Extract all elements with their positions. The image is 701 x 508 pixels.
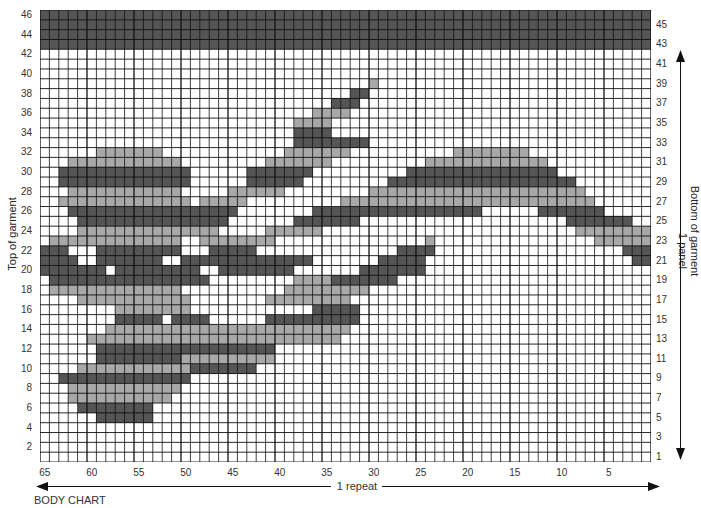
arrow-right-icon (648, 482, 660, 491)
pattern-run (632, 256, 651, 266)
pattern-run (566, 216, 632, 226)
pattern-run (40, 265, 106, 275)
pattern-run (181, 207, 237, 217)
pattern-run (190, 364, 256, 374)
row-label: 36 (2, 108, 32, 118)
pattern-run (294, 138, 369, 148)
row-label: 32 (2, 147, 32, 157)
row-label: 2 (2, 442, 32, 452)
column-label: 35 (317, 468, 337, 478)
column-label: 25 (411, 468, 431, 478)
pattern-run (115, 265, 200, 275)
right-axis-title: Bottom of garment (689, 176, 701, 286)
row-label: 38 (2, 89, 32, 99)
row-label: 3 (656, 432, 662, 442)
pattern-run (378, 256, 425, 266)
pattern-run (200, 197, 247, 207)
pattern-run (78, 403, 153, 413)
row-label: 45 (656, 20, 667, 30)
row-label: 14 (2, 324, 32, 334)
pattern-run (247, 167, 313, 177)
pattern-run (181, 354, 275, 364)
row-label: 9 (656, 373, 662, 383)
row-label: 5 (656, 413, 662, 423)
pattern-run (623, 246, 651, 256)
pattern-run (49, 236, 181, 246)
column-label: 40 (270, 468, 290, 478)
pattern-run (200, 236, 275, 246)
pattern-run (266, 324, 351, 334)
row-label: 10 (2, 364, 32, 374)
pattern-run (388, 177, 576, 187)
row-label: 34 (2, 128, 32, 138)
row-label: 6 (2, 403, 32, 413)
pattern-run (360, 265, 426, 275)
pattern-run (369, 79, 378, 89)
column-label: 65 (35, 468, 55, 478)
pattern-run (96, 246, 181, 256)
pattern-run (294, 128, 332, 138)
pattern-run (68, 207, 181, 217)
row-label: 16 (2, 305, 32, 315)
pattern-run (68, 187, 181, 197)
pattern-run (425, 157, 547, 167)
pattern-run (350, 89, 369, 99)
pattern-run (454, 148, 529, 158)
row-label: 46 (2, 10, 32, 20)
pattern-run (40, 246, 68, 256)
pattern-run (538, 207, 604, 217)
panel-arrow-line (680, 60, 681, 450)
pattern-run (284, 285, 369, 295)
arrow-down-icon (676, 448, 685, 460)
pattern-run (49, 275, 209, 285)
row-label: 13 (656, 334, 667, 344)
column-label: 60 (82, 468, 102, 478)
row-label: 31 (656, 157, 667, 167)
row-label: 7 (656, 393, 662, 403)
row-label: 33 (656, 138, 667, 148)
row-label: 11 (656, 354, 666, 364)
right-axis-subtitle: 1 panel (677, 211, 689, 291)
row-label: 27 (656, 197, 667, 207)
column-label: 10 (552, 468, 572, 478)
pattern-run (407, 167, 557, 177)
pattern-run (294, 275, 332, 285)
arrow-left-icon (36, 482, 48, 491)
pattern-run (397, 246, 435, 256)
repeat-arrow-line-left (48, 486, 331, 487)
pattern-run (341, 197, 595, 207)
pattern-run (425, 236, 434, 246)
pattern-run (331, 275, 397, 285)
knitting-chart-grid (40, 10, 651, 462)
row-label: 17 (656, 295, 667, 305)
pattern-run (59, 177, 191, 187)
column-label: 55 (129, 468, 149, 478)
pattern-run (595, 236, 651, 246)
pattern-run (369, 187, 585, 197)
pattern-run (266, 295, 351, 305)
pattern-run (78, 364, 191, 374)
pattern-run (78, 216, 191, 226)
pattern-run (115, 315, 162, 325)
pattern-run (96, 354, 181, 364)
pattern-run (115, 305, 190, 315)
pattern-run (78, 226, 191, 236)
row-label: 23 (656, 236, 667, 246)
pattern-run (266, 157, 332, 167)
left-axis-title: Top of garment (6, 184, 18, 284)
pattern-run (190, 216, 228, 226)
row-label: 37 (656, 98, 667, 108)
pattern-run (284, 148, 350, 158)
pattern-run (96, 256, 162, 266)
pattern-run (247, 177, 303, 187)
column-label: 15 (505, 468, 525, 478)
row-label: 18 (2, 285, 32, 295)
column-label: 20 (458, 468, 478, 478)
row-label: 40 (2, 69, 32, 79)
pattern-run (68, 157, 181, 167)
pattern-run (190, 226, 218, 236)
pattern-run (209, 246, 256, 256)
row-label: 8 (2, 383, 32, 393)
row-label: 30 (2, 167, 32, 177)
pattern-run (68, 393, 171, 403)
